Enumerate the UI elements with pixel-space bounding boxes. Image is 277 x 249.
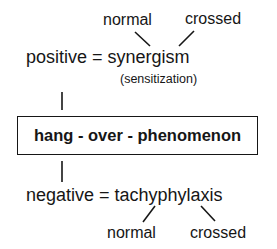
bottom-normal-label: normal [107, 225, 156, 241]
hang-over-phenomenon-label: hang - over - phenomenon [18, 127, 257, 144]
positive-synergism-label: positive = synergism [26, 48, 190, 66]
top-right-connector [179, 31, 194, 46]
top-crossed-label: crossed [185, 11, 241, 27]
hang-over-phenomenon-box: hang - over - phenomenon [17, 116, 258, 155]
bottom-left-connector [143, 206, 155, 222]
bottom-crossed-label: crossed [190, 225, 246, 241]
top-left-connector [135, 32, 150, 46]
top-normal-label: normal [103, 12, 152, 28]
sensitization-note: (sensitization) [120, 73, 197, 86]
bottom-right-connector [201, 206, 215, 221]
negative-tachyphylaxis-label: negative = tachyphylaxis [26, 186, 223, 204]
